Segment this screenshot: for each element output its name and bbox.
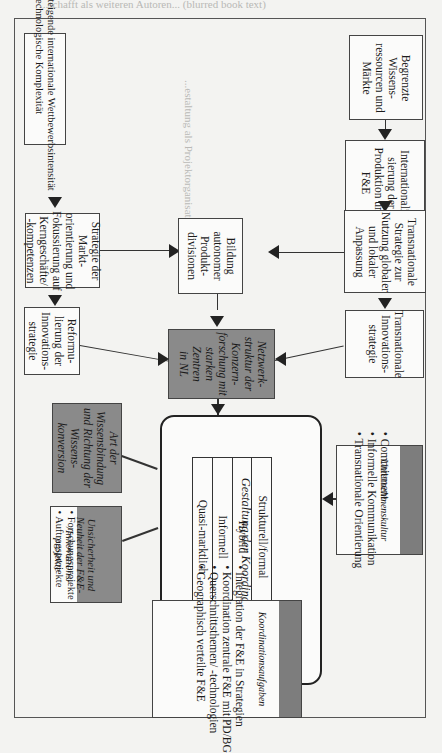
uncertainty-bullets: • Forschungsprojekte • Auftragsprojekte <box>53 510 77 599</box>
product-divisions-box: Bildung autonomer Produkt- divisionen <box>178 218 243 294</box>
reform-text: Reformu- lierung der Innovations- strate… <box>26 312 78 370</box>
resources-text: Begrenzte Wissens- ressourcen und Märkte <box>360 43 412 112</box>
culture-bullets: • Commitment • Informelle Kommunikation … <box>352 432 391 568</box>
transnational-strategy-box: Transnationale Strategie zur Nutzung glo… <box>344 210 426 293</box>
network-box: Netzwerk- struktur der Konzern- forschun… <box>168 329 275 399</box>
product-divisions-text: Bildung autonomer Produkt- divisionen <box>185 231 237 280</box>
uncertainty-box: Unsicherheit und Neuheit der F&E- /Innov… <box>50 506 122 603</box>
arrow-down-icon <box>210 316 224 327</box>
resources-box: Begrenzte Wissens- ressourcen und Märkte <box>349 35 423 120</box>
transnational-innovation-box: Transnationale Innovations- strategie <box>345 310 424 378</box>
knowledge-text: Art der Wissensbindung und Richtung der … <box>55 408 120 488</box>
reform-box: Reformu- lierung der Innovations- strate… <box>24 307 80 375</box>
arrow-down-icon <box>378 298 392 309</box>
knowledge-box: Art der Wissensbindung und Richtung der … <box>52 403 122 493</box>
tasks-box: Koordinationsaufgaben • Integration der … <box>152 600 302 718</box>
mode-cell: Strukturell/formal <box>251 458 271 616</box>
arrow-down-icon <box>48 295 62 306</box>
network-text: Netzwerk- struktur der Konzern- forschun… <box>176 332 267 396</box>
arrow-left-icon <box>268 245 279 259</box>
market-strategy-text: Strategie der Markt- orientierung und Fo… <box>24 211 102 291</box>
factors-box: • Steigende internationale Wettbewerbsin… <box>24 33 66 145</box>
arrow-left-icon <box>322 492 333 506</box>
arrow-right-icon <box>158 352 169 366</box>
arrow-down-icon <box>211 404 225 415</box>
transnational-strategy-text: Transnationale Strategie zur Nutzung glo… <box>353 211 418 291</box>
arrow-left-icon <box>275 352 286 366</box>
transnational-innovation-text: Transnationale Innovations- strategie <box>365 310 404 378</box>
arrow-down-icon <box>378 129 392 140</box>
background-text-top: ...schafft als weiteren Autoren... (blur… <box>40 0 266 10</box>
tasks-header: Koordinationsaufgaben <box>256 612 269 707</box>
market-strategy-box: Strategie der Markt- orientierung und Fo… <box>25 213 100 288</box>
arrow-down-icon <box>48 197 62 208</box>
culture-box: Unternehmenskultur • Commitment • Inform… <box>336 445 423 555</box>
factors-bullets: • Steigende internationale Wettbewerbsin… <box>33 0 57 191</box>
tasks-bullets: • Integration der F&E in Strategien • Ko… <box>194 565 246 753</box>
